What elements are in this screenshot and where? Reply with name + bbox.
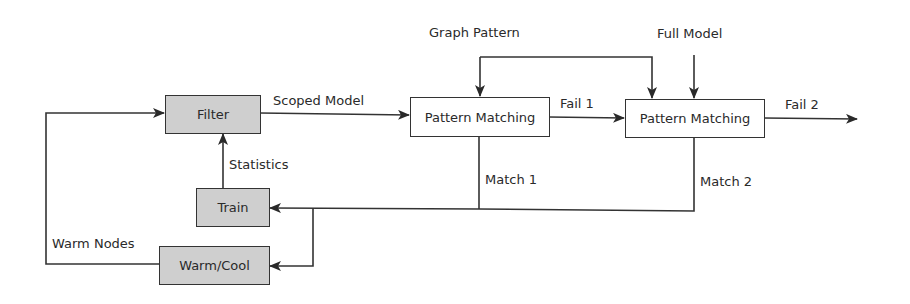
label-graph-pattern: Graph Pattern — [429, 25, 520, 40]
pattern-matching-2-node: Pattern Matching — [625, 99, 765, 138]
edge-fail-2 — [764, 118, 857, 119]
filter-node-label: Filter — [197, 107, 229, 122]
label-fail-1: Fail 1 — [560, 96, 594, 111]
edge-fail-1 — [549, 117, 624, 118]
label-warm-nodes: Warm Nodes — [52, 236, 135, 251]
filter-node: Filter — [165, 95, 261, 134]
label-scoped-model: Scoped Model — [273, 93, 364, 108]
edge-scoped-model — [260, 113, 409, 115]
diagram-connectors — [0, 0, 910, 304]
train-node: Train — [196, 188, 270, 227]
pattern-matching-1-label: Pattern Matching — [425, 110, 536, 125]
label-match-1: Match 1 — [485, 172, 537, 187]
warm-cool-node: Warm/Cool — [159, 246, 270, 285]
flow-diagram: Filter Train Warm/Cool Pattern Matching … — [0, 0, 910, 304]
warm-cool-node-label: Warm/Cool — [179, 258, 250, 273]
train-node-label: Train — [217, 200, 248, 215]
pattern-matching-1-node: Pattern Matching — [410, 97, 550, 137]
label-match-2: Match 2 — [700, 174, 752, 189]
edge-bus-to-train — [270, 208, 479, 209]
edge-bus-to-warmcool — [270, 208, 313, 266]
pattern-matching-2-label: Pattern Matching — [640, 111, 751, 126]
label-full-model: Full Model — [657, 26, 722, 41]
label-fail-2: Fail 2 — [785, 97, 819, 112]
label-statistics: Statistics — [229, 157, 288, 172]
edge-graph-pattern-2 — [480, 57, 652, 98]
